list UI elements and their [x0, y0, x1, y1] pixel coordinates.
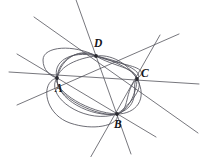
conic-curve-4	[57, 53, 137, 115]
vertex-dot-d	[94, 54, 98, 58]
vertex-label-b: B	[114, 119, 122, 131]
vertex-dot-b	[115, 112, 119, 116]
geometry-figure: A B C D	[0, 0, 205, 157]
vertex-label-c: C	[141, 68, 149, 80]
vertex-dot-c	[135, 77, 139, 81]
line-group	[9, 0, 199, 157]
vertex-label-a: A	[55, 83, 63, 95]
vertex-label-d: D	[94, 38, 102, 50]
line-bc	[89, 35, 160, 157]
vertex-dot-a	[55, 76, 59, 80]
conic-pencil-svg	[0, 0, 205, 157]
